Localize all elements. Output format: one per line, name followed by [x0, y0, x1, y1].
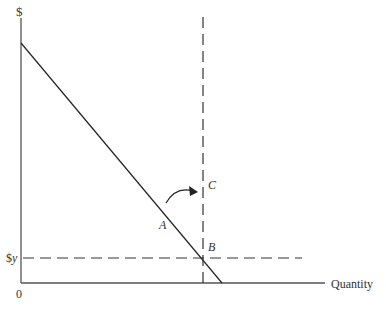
- arrowhead-icon: [189, 186, 198, 196]
- point-c-label: C: [208, 179, 216, 191]
- demand-line: [21, 43, 222, 283]
- point-a-label: A: [159, 219, 166, 231]
- curved-arrow-icon: [166, 190, 193, 203]
- point-b-label: B: [208, 241, 215, 253]
- y-axis-label: $: [16, 6, 23, 18]
- diagram-canvas: [0, 0, 386, 309]
- price-label-var: y: [12, 251, 17, 265]
- price-label: $y: [6, 252, 17, 264]
- x-axis-label: Quantity: [331, 278, 373, 290]
- origin-label: 0: [16, 288, 22, 300]
